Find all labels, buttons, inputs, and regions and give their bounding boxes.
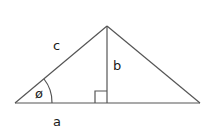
label-a: a	[53, 114, 61, 129]
triangle-diagram: c b ø a	[0, 0, 212, 129]
left-side-line	[15, 26, 107, 103]
right-angle-marker	[95, 91, 107, 103]
label-angle: ø	[35, 86, 43, 101]
label-b: b	[113, 58, 121, 73]
label-c: c	[53, 38, 60, 53]
angle-arc	[44, 79, 52, 103]
